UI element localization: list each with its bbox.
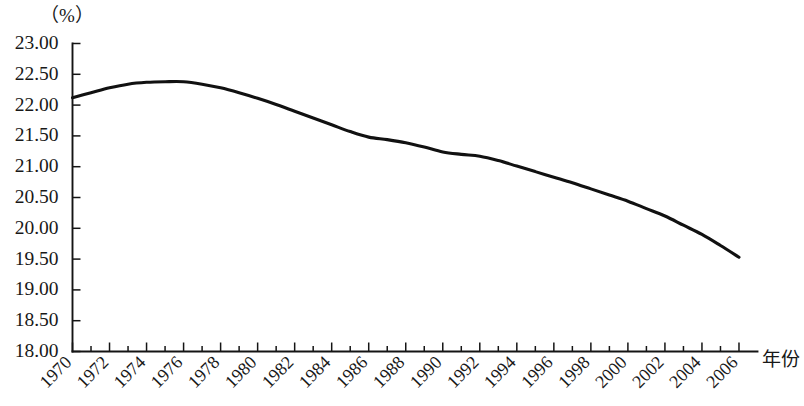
y-axis-tick-marks [73, 44, 81, 352]
y-axis-tick-label: 22.00 [15, 94, 59, 115]
y-axis-tick-label: 18.50 [15, 309, 59, 330]
y-axis-tick-label: 18.00 [15, 340, 59, 361]
y-axis-tick-label: 20.00 [15, 217, 59, 238]
x-axis-tick-label: 1992 [443, 352, 483, 392]
x-axis-tick-label: 1988 [369, 352, 409, 392]
chart-container: （%） 23.0022.5022.0021.5021.0020.5020.001… [0, 0, 804, 406]
y-axis-tick-label: 22.50 [15, 63, 59, 84]
x-axis-tick-label: 1982 [258, 352, 298, 392]
y-axis-tick-label: 19.50 [15, 248, 59, 269]
y-axis-tick-label: 19.00 [15, 278, 59, 299]
y-axis-unit-label: （%） [40, 5, 94, 26]
x-axis-tick-label: 1994 [480, 352, 520, 392]
x-axis-title: 年份 [762, 349, 800, 370]
x-axis-tick-label: 1990 [406, 352, 446, 392]
y-axis-tick-label: 23.00 [15, 32, 59, 53]
x-axis-tick-label: 1998 [554, 352, 594, 392]
y-axis-tick-label: 21.00 [15, 155, 59, 176]
x-axis-tick-label: 1972 [73, 352, 113, 392]
y-axis-unit-label-group: （%） [40, 5, 94, 26]
x-axis-tick-label: 1996 [517, 352, 557, 392]
y-axis-tick-label: 20.50 [15, 186, 59, 207]
x-axis-tick-label: 2004 [665, 352, 705, 392]
x-axis-tick-label: 2002 [628, 352, 668, 392]
x-axis-tick-marks [73, 343, 739, 352]
x-axis-tick-labels: 1970197219741976197819801982198419861988… [36, 352, 742, 392]
x-axis-tick-label: 1986 [332, 352, 372, 392]
y-axis-tick-labels: 23.0022.5022.0021.5021.0020.5020.0019.50… [15, 32, 59, 361]
line-chart: （%） 23.0022.5022.0021.5021.0020.5020.001… [0, 0, 804, 406]
y-axis-tick-label: 21.50 [15, 124, 59, 145]
x-axis-tick-label: 2006 [702, 352, 742, 392]
x-axis-tick-label: 1984 [295, 352, 335, 392]
x-axis-tick-label: 1978 [184, 352, 224, 392]
x-axis-tick-label: 1974 [110, 352, 150, 392]
data-series-line [73, 81, 739, 257]
x-axis-tick-label: 1976 [147, 352, 187, 392]
x-axis-tick-label: 2000 [591, 352, 631, 392]
x-axis-tick-label: 1980 [221, 352, 261, 392]
